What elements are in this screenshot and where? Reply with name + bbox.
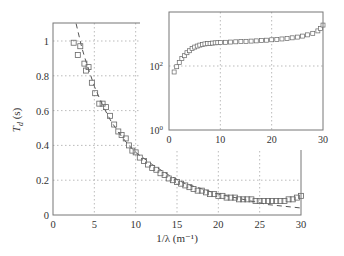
- data-marker: [103, 105, 108, 110]
- data-marker: [175, 65, 179, 69]
- y-tick-label: 1: [44, 36, 49, 47]
- data-marker: [259, 39, 263, 43]
- data-marker: [280, 37, 284, 41]
- data-marker: [239, 40, 243, 44]
- main-y-axis-label: Td (s): [10, 107, 25, 132]
- x-tick-label: 0: [50, 219, 55, 230]
- x-tick-label: 10: [130, 219, 141, 230]
- y-tick-label: 0.8: [36, 71, 49, 82]
- inset-plot: 0102030 100102: [140, 8, 344, 150]
- data-marker: [218, 41, 222, 45]
- data-marker: [234, 40, 238, 44]
- x-tick-label: 30: [296, 219, 307, 230]
- data-marker: [275, 37, 279, 41]
- data-marker: [108, 113, 113, 118]
- x-tick-label: 25: [254, 219, 265, 230]
- data-marker: [300, 34, 304, 38]
- data-marker: [290, 36, 294, 40]
- data-marker: [285, 36, 289, 40]
- data-marker: [249, 39, 253, 43]
- data-marker: [229, 40, 233, 44]
- x-tick-label: 15: [172, 219, 183, 230]
- data-marker: [78, 44, 83, 49]
- x-tick-label: 5: [92, 219, 97, 230]
- data-marker: [244, 39, 248, 43]
- data-marker: [116, 129, 121, 134]
- main-x-tick-labels: 051015202530: [50, 219, 306, 230]
- chart-figure: 051015202530 00.20.40.60.81 1/λ (m⁻¹) Td…: [0, 0, 344, 256]
- data-marker: [270, 38, 274, 42]
- y-tick-label: 0.2: [36, 175, 49, 186]
- inset-x-tick-label: 30: [318, 134, 328, 145]
- inset-x-tick-label: 10: [215, 134, 225, 145]
- inset-x-tick-label: 0: [167, 134, 172, 145]
- data-marker: [172, 70, 176, 74]
- data-marker: [75, 52, 80, 57]
- inset-x-tick-label: 20: [267, 134, 277, 145]
- main-y-tick-labels: 00.20.40.60.81: [36, 36, 50, 221]
- data-marker: [311, 31, 315, 35]
- main-x-axis-label: 1/λ (m⁻¹): [156, 232, 198, 245]
- data-marker: [254, 39, 258, 43]
- y-tick-label: 0.6: [36, 106, 49, 117]
- y-tick-label: 0.4: [36, 140, 50, 151]
- data-marker: [306, 33, 310, 37]
- inset-background: [140, 8, 344, 150]
- data-marker: [265, 38, 269, 42]
- y-tick-label: 0: [44, 210, 49, 221]
- data-marker: [295, 35, 299, 39]
- x-tick-label: 20: [213, 219, 224, 230]
- data-marker: [223, 40, 227, 44]
